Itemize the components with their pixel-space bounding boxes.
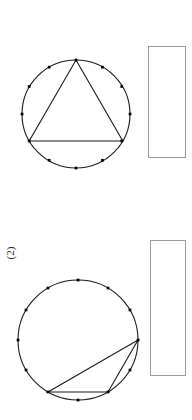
circle-outline <box>18 280 138 400</box>
circle-point <box>47 391 50 394</box>
circle-point <box>25 369 28 372</box>
circle-points-group <box>17 279 140 402</box>
circle-point <box>137 339 140 342</box>
bottom-circle-group <box>17 279 140 402</box>
circle-point <box>101 66 104 69</box>
circle-point <box>28 85 31 88</box>
circle-point <box>47 287 50 290</box>
circle-point <box>129 309 132 312</box>
inscribed-triangle <box>48 340 138 392</box>
figure-label-two: (2) <box>0 238 22 268</box>
figure-bottom-svg <box>0 270 150 420</box>
figure-bottom-circle-triangle <box>0 270 150 420</box>
circle-point <box>17 339 20 342</box>
circle-point <box>25 309 28 312</box>
circle-point <box>75 59 78 62</box>
circle-point <box>28 140 31 143</box>
circle-point <box>75 167 78 170</box>
figure-top-circle-triangle: (2) <box>0 48 150 208</box>
circle-point <box>48 159 51 162</box>
circle-point <box>48 66 51 69</box>
circle-point <box>77 399 80 402</box>
circle-point <box>101 159 104 162</box>
circle-point <box>120 85 123 88</box>
answer-box-bottom[interactable] <box>150 240 186 376</box>
circle-outline <box>22 60 130 168</box>
circle-point <box>129 113 132 116</box>
circle-point <box>21 113 24 116</box>
circle-point <box>107 287 110 290</box>
circle-point <box>77 279 80 282</box>
answer-box-top[interactable] <box>148 46 186 158</box>
top-circle-group <box>21 59 132 170</box>
circle-points-group <box>21 59 132 170</box>
inscribed-triangle <box>29 60 123 141</box>
circle-point <box>107 391 110 394</box>
worksheet-page: (2) <box>0 0 192 420</box>
figure-top-svg <box>0 48 150 218</box>
circle-point <box>120 140 123 143</box>
circle-point <box>129 369 132 372</box>
